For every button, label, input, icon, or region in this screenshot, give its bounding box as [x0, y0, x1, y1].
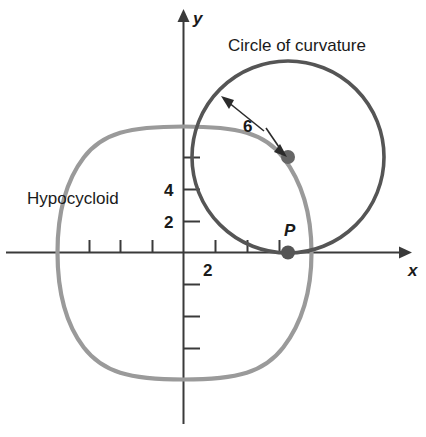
x-axis — [6, 247, 412, 259]
y-tick-label-2: 2 — [164, 214, 173, 231]
x-axis-label: x — [408, 262, 417, 279]
x-tick-label-2: 2 — [203, 262, 212, 279]
figure-canvas — [0, 0, 426, 437]
radius-value-label: 6 — [243, 118, 252, 135]
y-tick-label-4: 4 — [164, 182, 173, 199]
y-axis-label: y — [193, 10, 202, 27]
x-axis-arrowhead — [399, 247, 412, 259]
point-p-label: P — [284, 222, 295, 239]
hypocycloid-label: Hypocycloid — [27, 190, 119, 207]
hypocycloid-circle-of-curvature-figure: Circle of curvature Hypocycloid 6 P y x … — [0, 0, 426, 437]
y-axis-arrowhead — [178, 9, 190, 22]
circle-of-curvature-label: Circle of curvature — [228, 37, 366, 54]
radius-arrowhead-outer — [221, 96, 234, 109]
point-p-dot — [281, 246, 295, 260]
y-axis — [178, 9, 190, 424]
